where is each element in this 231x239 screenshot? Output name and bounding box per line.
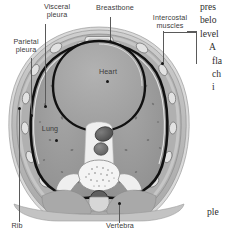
body-text-line-7: i — [199, 80, 231, 93]
label-intercostal-line2: muscles — [141, 22, 199, 30]
leader-line-intercostal-muscles — [196, 31, 197, 64]
label-vertebra: Vertebra — [94, 222, 146, 230]
label-visceral-pleura: Visceral pleura — [31, 3, 83, 20]
leader-drop-intercostal-muscles — [163, 31, 164, 63]
anatomy-svg — [0, 0, 199, 239]
label-lung: Lung — [30, 125, 70, 133]
heart-organ — [53, 41, 145, 131]
body-text-line-3: level — [199, 27, 231, 40]
leader-line-visceral-pleura — [45, 24, 46, 107]
leader-line-parietal-pleura — [31, 58, 32, 116]
body-text-tail: ple — [207, 205, 219, 218]
leader-bridge-intercostal-muscles — [163, 32, 197, 33]
body-text-line-5: fla — [199, 54, 231, 67]
esophagus — [94, 143, 108, 155]
page-body-text-column: pres belo level A fla ch i ple — [199, 0, 231, 239]
label-intercostal-muscles: Intercostal muscles — [141, 14, 199, 31]
label-parietal-pleura-line2: pleura — [2, 46, 50, 54]
label-rib: Rib — [2, 222, 32, 230]
body-text-line-6: ch — [199, 67, 231, 80]
body-text-line-4: A — [199, 40, 231, 53]
label-heart: Heart — [86, 68, 130, 76]
leader-line-breastbone — [110, 17, 111, 42]
figure-page: Visceral pleura Parietal pleura Breastbo… — [0, 0, 231, 239]
label-breastbone: Breastbone — [79, 4, 151, 12]
body-text-line-1: pres — [199, 0, 231, 13]
leader-line-rib — [19, 110, 20, 222]
body-text-line-2: belo — [199, 13, 231, 26]
thorax-cross-section-illustration — [0, 0, 199, 239]
label-parietal-pleura: Parietal pleura — [2, 38, 50, 55]
label-visceral-pleura-line2: pleura — [31, 11, 83, 19]
